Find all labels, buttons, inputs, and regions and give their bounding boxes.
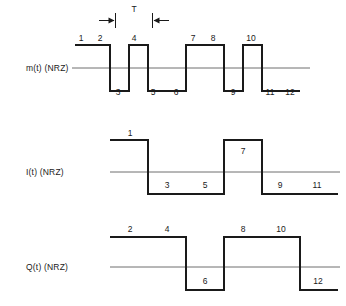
- bit-label-m-6: 6: [174, 87, 179, 97]
- bit-label-i-9: 9: [278, 180, 283, 190]
- bit-label-m-5: 5: [151, 87, 156, 97]
- waveform-i: [110, 140, 340, 194]
- bit-label-i-7: 7: [241, 146, 246, 156]
- bit-label-q-4: 4: [165, 224, 170, 234]
- waveform-label-q: Q(t) (NRZ): [26, 262, 68, 272]
- bit-label-m-11: 11: [266, 87, 275, 97]
- bit-label-m-12: 12: [285, 87, 294, 97]
- waveform-m: [72, 45, 310, 91]
- bit-label-i-5: 5: [203, 180, 208, 190]
- bit-label-i-1: 1: [128, 128, 133, 138]
- waveform-label-i: I(t) (NRZ): [26, 167, 64, 177]
- bit-label-m-10: 10: [246, 33, 255, 43]
- bit-label-m-3: 3: [116, 87, 121, 97]
- bit-label-m-1: 1: [79, 33, 84, 43]
- bit-label-m-4: 4: [132, 33, 137, 43]
- bit-label-q-6: 6: [203, 276, 208, 286]
- waveform-label-m: m(t) (NRZ): [26, 63, 69, 73]
- bit-label-i-3: 3: [165, 180, 170, 190]
- bit-label-q-8: 8: [241, 224, 246, 234]
- waveform-q: [110, 237, 340, 290]
- waveform-canvas: [0, 0, 346, 306]
- bit-label-m-9: 9: [231, 87, 236, 97]
- bit-label-m-7: 7: [191, 33, 196, 43]
- bit-label-q-2: 2: [128, 224, 133, 234]
- nrz-waveform-figure: T m(t) (NRZ) I(t) (NRZ) Q(t) (NRZ): [0, 0, 346, 306]
- bit-label-q-12: 12: [313, 276, 322, 286]
- bit-label-m-2: 2: [98, 33, 103, 43]
- bit-period-marker: [99, 13, 169, 28]
- bit-label-q-10: 10: [276, 224, 285, 234]
- bit-label-m-8: 8: [211, 33, 216, 43]
- bit-label-i-11: 11: [313, 180, 322, 190]
